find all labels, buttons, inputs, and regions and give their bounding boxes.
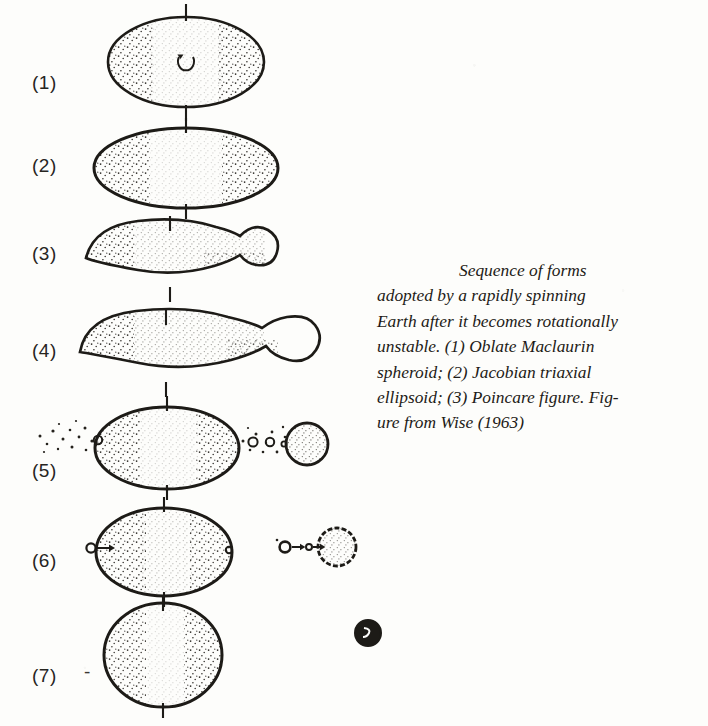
figure-5-stipple <box>92 404 244 496</box>
companion-infalling-particle-2 <box>306 544 312 550</box>
figure-3-poincare-figure <box>80 214 278 310</box>
figure-1-oblate-maclaurin-spheroid <box>106 4 266 121</box>
infalling-particle-left <box>86 543 95 552</box>
figure-caption: Sequence of forms adopted by a rapidly s… <box>377 258 695 436</box>
figure-5-fission-with-debris <box>39 396 329 500</box>
figure-4-necked-poincare-figure <box>74 306 320 406</box>
figure-7-earth-and-moon <box>100 596 381 718</box>
companion-infalling-particle-1 <box>280 542 291 553</box>
caption-line-5: spheroid; (2) Jacobian triaxial <box>377 360 695 385</box>
companion-debris-dot <box>276 539 279 542</box>
debris-particle-right-2 <box>266 438 274 446</box>
figure-6-accretion-stage <box>86 497 356 607</box>
caption-line-3: Earth after it becomes rotationally <box>377 309 695 334</box>
figure-2-jacobian-triaxial-ellipsoid <box>94 118 280 219</box>
caption-line-7: ure from Wise (1963) <box>377 410 695 435</box>
debris-particle-right-1 <box>248 437 257 446</box>
debris-trail-left <box>39 420 94 453</box>
caption-line-4: unstable. (1) Oblate Maclaurin <box>377 334 695 359</box>
companion-infall-arrow-1-head-icon <box>300 544 305 551</box>
caption-line-1: Sequence of forms <box>377 258 695 283</box>
caption-line-2: adopted by a rapidly spinning <box>377 283 695 308</box>
figure-7-stipple <box>100 600 226 712</box>
figure-page: (1) (2) (3) (4) (5) (6) (7) - <box>0 0 708 726</box>
caption-line-6: ellipsoid; (3) Poincare figure. Fig- <box>377 385 695 410</box>
